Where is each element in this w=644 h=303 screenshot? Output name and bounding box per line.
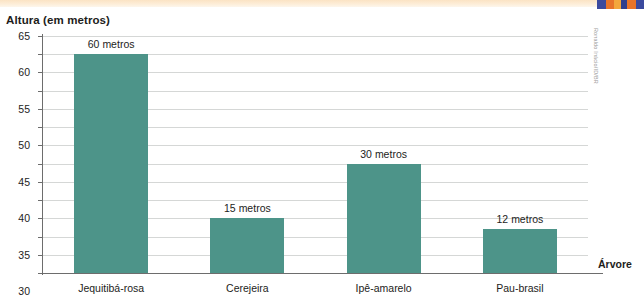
color-swatch-0 <box>597 0 606 9</box>
y-tick-label-30: 30 <box>18 285 30 297</box>
y-tick-20: 20 <box>38 200 43 201</box>
bar-0 <box>74 54 148 273</box>
category-label-3: Pau-brasil <box>496 282 543 294</box>
bar-1 <box>210 218 284 273</box>
category-label-0: Jequitibá-rosa <box>78 282 144 294</box>
gridline-65 <box>43 36 588 37</box>
y-tick-label-40: 40 <box>18 212 30 224</box>
y-axis-line <box>42 34 43 275</box>
y-tick-55: 55 <box>38 72 43 73</box>
bar-value-label-2: 30 metros <box>360 148 407 160</box>
bar-2 <box>347 164 421 273</box>
y-tick-0: 0 <box>38 273 43 274</box>
decorative-top-band <box>0 0 644 7</box>
y-tick-label-65: 65 <box>18 30 30 42</box>
image-credit: Ronaldo Inácio/ID/BR <box>593 28 599 84</box>
y-tick-10: 10 <box>38 237 43 238</box>
y-tick-5: 5 <box>38 255 43 256</box>
bar-value-label-0: 60 metros <box>88 38 135 50</box>
bar-value-label-1: 15 metros <box>224 202 271 214</box>
color-swatch-4 <box>627 0 636 9</box>
color-swatch-strip <box>597 0 644 9</box>
y-tick-label-45: 45 <box>18 176 30 188</box>
chart-plot-area: 05101520253035404550556065 60 metros15 m… <box>43 36 588 273</box>
y-tick-65: 65 <box>38 36 43 37</box>
y-tick-40: 40 <box>38 127 43 128</box>
y-tick-50: 50 <box>38 91 43 92</box>
y-tick-label-35: 35 <box>18 249 30 261</box>
category-label-2: Ipê-amarelo <box>356 282 412 294</box>
y-tick-30: 30 <box>38 164 43 165</box>
y-tick-45: 45 <box>38 109 43 110</box>
y-tick-25: 25 <box>38 182 43 183</box>
bar-value-label-3: 12 metros <box>497 213 544 225</box>
y-tick-label-60: 60 <box>18 66 30 78</box>
category-label-1: Cerejeira <box>226 282 269 294</box>
color-swatch-2 <box>614 0 621 9</box>
color-swatch-5 <box>636 0 644 9</box>
y-tick-label-50: 50 <box>18 139 30 151</box>
x-axis-title: Árvore <box>598 258 632 270</box>
y-tick-label-55: 55 <box>18 103 30 115</box>
bar-3 <box>483 229 557 273</box>
y-tick-35: 35 <box>38 145 43 146</box>
chart-title: Altura (em metros) <box>6 14 110 26</box>
x-axis-line <box>42 273 603 274</box>
y-tick-60: 60 <box>38 54 43 55</box>
y-tick-15: 15 <box>38 218 43 219</box>
color-swatch-1 <box>606 0 614 9</box>
